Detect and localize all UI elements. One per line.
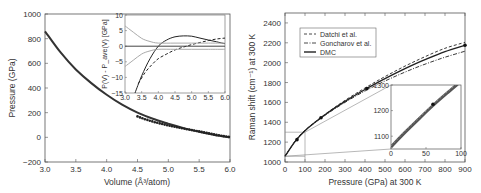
dmc-point: [295, 138, 299, 142]
inset-y-tick-label: −15: [111, 90, 123, 97]
data-point: [156, 122, 159, 125]
data-point: [215, 134, 218, 137]
inset-y-tick-label: 1100: [374, 133, 389, 140]
x-tick-label: 500: [378, 165, 392, 174]
x-tick-label: 400: [358, 165, 372, 174]
dmc-point: [365, 87, 369, 91]
inset-y-tick-label: 10: [115, 12, 123, 19]
data-point: [208, 132, 211, 135]
data-point: [223, 135, 226, 138]
x-tick-label: 4.0: [101, 165, 113, 174]
inset-y-tick-label: 5: [119, 27, 123, 34]
left-x-axis-label: Volume (Å³/atom): [104, 177, 170, 187]
left-y-ticks: −20002004006008001000: [23, 10, 48, 167]
data-point: [181, 127, 184, 130]
x-tick-label: 800: [438, 165, 452, 174]
right-chart: 0100200300400500600700800900 10001200140…: [247, 13, 472, 187]
data-point: [149, 119, 152, 122]
data-point: [198, 130, 201, 133]
y-tick-label: 1000: [23, 10, 41, 19]
data-point: [173, 125, 176, 128]
x-tick-label: 3.5: [70, 165, 82, 174]
inset-y-tick-label: 1200: [373, 107, 389, 114]
data-point: [210, 133, 213, 136]
legend-label-datchi: Datchi et al.: [320, 31, 357, 38]
data-point: [195, 130, 198, 133]
y-tick-label: 2200: [263, 39, 281, 48]
x-tick-label: 100: [298, 165, 312, 174]
right-inset: 050100110012001300: [373, 80, 467, 157]
dmc-point: [319, 116, 323, 120]
x-tick-label: 900: [458, 165, 472, 174]
inset-x-tick-label: 50: [422, 150, 430, 157]
legend-label-goncharov: Goncharov et al.: [320, 40, 371, 47]
data-point: [228, 136, 231, 139]
zoom-connector-bottom: [285, 149, 391, 156]
inset-y-tick-label: −5: [115, 58, 123, 65]
inset-x-tick-label: 5.5: [203, 94, 213, 101]
legend-label-dmc: DMC: [320, 49, 336, 56]
x-tick-label: 600: [398, 165, 412, 174]
data-point: [188, 128, 191, 131]
left-x-ticks: 3.03.54.04.55.05.56.0: [39, 159, 236, 174]
x-tick-label: 6.0: [224, 165, 236, 174]
inset-x-tick-label: 5.0: [187, 94, 197, 101]
data-point: [141, 117, 144, 120]
y-tick-label: 1200: [263, 138, 281, 147]
y-tick-label: 600: [28, 59, 42, 68]
x-tick-label: 5.5: [194, 165, 206, 174]
data-point: [205, 132, 208, 135]
x-tick-label: 3.0: [39, 165, 51, 174]
inset-x-tick-label: 0: [389, 150, 393, 157]
dmc-point: [463, 43, 467, 47]
y-tick-label: 2400: [263, 19, 281, 28]
data-point: [168, 124, 171, 127]
data-point: [158, 122, 161, 125]
data-point: [166, 124, 169, 127]
data-point: [139, 116, 142, 119]
data-point: [203, 131, 206, 134]
data-point: [225, 135, 228, 138]
left-inset: 3.03.54.04.55.05.56.0−15−10−50510 P(V) -…: [101, 12, 230, 102]
data-point: [200, 131, 203, 134]
inset-x-tick-label: 4.5: [170, 94, 180, 101]
data-point: [154, 121, 157, 124]
legend: Datchi et al. Goncharov et al. DMC: [300, 28, 376, 57]
figure: 3.03.54.04.55.05.56.0 −20002004006008001…: [0, 0, 481, 193]
x-tick-label: 4.5: [132, 165, 144, 174]
right-y-axis-label: Raman shift (cm⁻¹) at 300 K: [247, 33, 257, 140]
data-point: [171, 125, 174, 128]
data-point: [161, 123, 164, 126]
data-point: [151, 120, 154, 123]
y-tick-label: 1600: [263, 98, 281, 107]
left-inset-y-label: P(V) - P_ave(V) [GPa]: [101, 19, 109, 88]
y-tick-label: 1800: [263, 79, 281, 88]
y-tick-label: 800: [28, 35, 42, 44]
inset-x-tick-label: 3.5: [137, 94, 147, 101]
y-tick-label: 400: [28, 84, 42, 93]
y-tick-label: 200: [28, 109, 42, 118]
data-point: [178, 126, 181, 129]
right-inset-frame: [391, 85, 461, 149]
x-tick-label: 300: [338, 165, 352, 174]
data-point: [163, 123, 166, 126]
data-point: [186, 128, 189, 131]
y-tick-label: 2000: [263, 59, 281, 68]
inset-x-tick-label: 6.0: [220, 94, 230, 101]
data-point: [136, 115, 139, 118]
left-chart: 3.03.54.04.55.05.56.0 −20002004006008001…: [7, 10, 236, 187]
inset-dmc-point: [431, 102, 435, 106]
data-point: [146, 119, 149, 122]
inset-x-tick-label: 4.0: [153, 94, 163, 101]
inset-y-tick-label: −10: [111, 74, 123, 81]
data-point: [213, 133, 216, 136]
x-tick-label: 200: [318, 165, 332, 174]
y-tick-label: −200: [23, 158, 42, 167]
right-x-axis-label: Pressure (GPa) at 300 K: [328, 177, 421, 187]
x-tick-label: 0: [283, 165, 288, 174]
y-tick-label: 1000: [263, 158, 281, 167]
data-point: [193, 129, 196, 132]
data-point: [218, 134, 221, 137]
right-y-ticks: 10001200140016001800200022002400: [263, 19, 288, 167]
left-y-axis-label: Pressure (GPa): [7, 58, 17, 117]
